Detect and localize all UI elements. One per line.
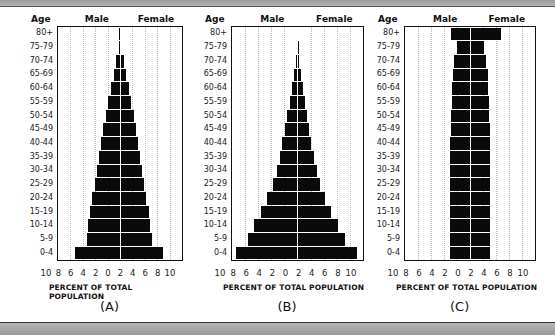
male-bar — [87, 233, 120, 246]
male-bar — [450, 137, 470, 150]
male-header: Male — [260, 14, 284, 24]
age-label: 50-54 — [193, 111, 227, 120]
male-bar — [90, 206, 120, 219]
male-bar — [450, 206, 470, 219]
age-label: 35-39 — [193, 152, 227, 161]
male-bar — [453, 69, 470, 82]
age-label: 5-9 — [366, 234, 400, 243]
age-label: 80+ — [366, 28, 400, 37]
age-label: 15-19 — [193, 207, 227, 216]
male-bar — [106, 110, 120, 123]
age-label: 5-9 — [193, 234, 227, 243]
female-bar — [470, 28, 501, 41]
male-bar — [103, 123, 120, 136]
pyramid-panel-c: AgeMaleFemale80+75-7970-7465-6960-6455-5… — [370, 7, 555, 322]
female-bar — [298, 233, 345, 246]
gridline — [496, 27, 497, 260]
male-bar — [285, 123, 297, 136]
age-label: 60-64 — [366, 83, 400, 92]
x-axis-title: PERCENT OF TOTAL POPULATION — [396, 283, 537, 292]
center-axis-line — [120, 27, 121, 260]
male-bar — [450, 247, 470, 260]
x-tick-label: 10 — [343, 268, 359, 278]
male-bar — [450, 192, 470, 205]
age-header: Age — [205, 14, 225, 24]
age-label: 10-14 — [366, 220, 400, 229]
female-bar — [298, 192, 326, 205]
plot-area — [57, 26, 183, 261]
gridline — [245, 27, 246, 260]
age-label: 35-39 — [366, 152, 400, 161]
female-bar — [470, 192, 490, 205]
age-label: 65-69 — [193, 69, 227, 78]
gridline — [70, 27, 71, 260]
age-label: 10-14 — [19, 220, 53, 229]
age-label: 70-74 — [193, 56, 227, 65]
female-bar — [470, 110, 489, 123]
male-bar — [254, 219, 297, 232]
age-label: 25-29 — [193, 179, 227, 188]
male-bar — [450, 219, 470, 232]
gridline — [170, 27, 171, 260]
female-bar — [120, 96, 131, 109]
male-bar — [75, 247, 120, 260]
female-bar — [470, 137, 490, 150]
age-label: 25-29 — [19, 179, 53, 188]
age-label: 70-74 — [366, 56, 400, 65]
age-label: 75-79 — [19, 42, 53, 51]
female-bar — [298, 69, 302, 82]
female-bar — [298, 206, 331, 219]
gridline — [418, 27, 419, 260]
male-bar — [97, 165, 120, 178]
age-label: 40-44 — [366, 138, 400, 147]
male-bar — [280, 151, 298, 164]
male-bar — [108, 96, 120, 109]
female-bar — [470, 41, 484, 54]
female-bar — [120, 137, 138, 150]
age-label: 45-49 — [19, 124, 53, 133]
age-label: 70-74 — [19, 56, 53, 65]
female-bar — [120, 192, 146, 205]
male-bar — [99, 151, 120, 164]
age-header: Age — [31, 14, 51, 24]
male-bar — [273, 178, 298, 191]
age-label: 35-39 — [19, 152, 53, 161]
top-border-band — [0, 0, 555, 7]
center-axis-line — [470, 27, 471, 260]
gridline — [509, 27, 510, 260]
male-header: Male — [433, 14, 457, 24]
male-bar — [88, 219, 120, 232]
gridline — [444, 27, 445, 260]
female-bar — [298, 178, 321, 191]
male-bar — [450, 165, 470, 178]
age-label: 50-54 — [19, 111, 53, 120]
female-bar — [470, 82, 488, 95]
age-label: 40-44 — [19, 138, 53, 147]
male-bar — [450, 233, 470, 246]
age-label: 55-59 — [19, 97, 53, 106]
age-label: 65-69 — [19, 69, 53, 78]
male-bar — [282, 137, 297, 150]
age-label: 15-19 — [19, 207, 53, 216]
female-bar — [470, 69, 488, 82]
female-bar — [470, 96, 489, 109]
age-label: 60-64 — [19, 83, 53, 92]
female-bar — [470, 178, 490, 191]
age-label: 0-4 — [193, 248, 227, 257]
age-header: Age — [378, 14, 398, 24]
female-bar — [120, 178, 144, 191]
age-label: 65-69 — [366, 69, 400, 78]
age-label: 50-54 — [366, 111, 400, 120]
male-bar — [95, 178, 120, 191]
female-bar — [120, 151, 140, 164]
panel-caption: (A) — [100, 299, 119, 314]
age-label: 0-4 — [366, 248, 400, 257]
male-bar — [101, 137, 120, 150]
pyramid-panel-b: AgeMaleFemale80+75-7970-7465-6960-6455-5… — [185, 7, 370, 322]
male-bar — [451, 28, 471, 41]
female-bar — [120, 55, 124, 68]
panel-caption: (B) — [278, 299, 297, 314]
male-bar — [454, 55, 470, 68]
x-tick-label: 10 — [515, 268, 531, 278]
female-bar — [298, 123, 310, 136]
